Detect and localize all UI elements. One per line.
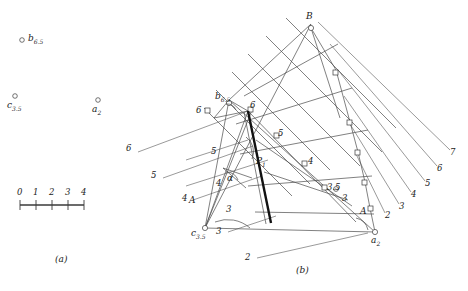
- panel-b-vertex-B: B: [306, 12, 313, 21]
- annotation-P1: P1: [256, 157, 266, 168]
- right-ray-label-6: 6: [437, 164, 442, 173]
- right-ray-label-3: 3: [399, 202, 404, 211]
- left-ray-label-2: 2: [245, 253, 250, 262]
- node-label-3-left: 3: [226, 205, 231, 214]
- scale-tick-2: 2: [49, 188, 54, 197]
- right-ray-label-7: 7: [450, 148, 455, 157]
- left-ray-label-6: 6: [126, 144, 131, 153]
- annotation-alpha: α: [227, 174, 233, 183]
- left-ray-label-4: 4: [182, 194, 187, 203]
- scale-tick-0: 0: [17, 188, 22, 197]
- panel-b-caption: (b): [296, 266, 309, 275]
- panel-b-vertex-b: b6.5: [215, 92, 230, 103]
- scale-tick-3: 3: [65, 188, 70, 197]
- left-ray-label-5: 5: [151, 171, 156, 180]
- right-ray-label-2: 2: [385, 211, 390, 220]
- node-label-A-left: A: [189, 196, 196, 205]
- node-label-6-right: 6: [250, 101, 255, 110]
- scale-tick-1: 1: [33, 188, 38, 197]
- node-label-3-grid: 3: [342, 194, 347, 203]
- panel-a-label-b: b6.5: [28, 34, 43, 45]
- panel-a-points: [13, 38, 101, 103]
- right-ray-label-5: 5: [425, 179, 430, 188]
- panel-b-vertex-c: c3.5: [191, 229, 206, 240]
- panel-a-label-c: c3.5: [7, 101, 22, 112]
- panel-a-caption: (a): [55, 255, 67, 264]
- scale-tick-4: 4: [81, 188, 86, 197]
- node-label-4-grid: 4: [308, 157, 313, 166]
- node-label-A-right: A: [360, 207, 367, 216]
- right-ray-label-4: 4: [411, 190, 416, 199]
- node-label-3point5: 3.5: [327, 183, 341, 192]
- node-label-4-left: 4: [216, 179, 221, 188]
- nomogram-figure: .ln { stroke:#4a4a4a; stroke-width:0.7; …: [0, 0, 468, 291]
- node-label-5-grid: 5: [278, 129, 283, 138]
- node-label-5-left: 5: [211, 147, 216, 156]
- panel-b-vertex-a: a2: [371, 236, 380, 247]
- figure-geometry: .ln { stroke:#4a4a4a; stroke-width:0.7; …: [0, 0, 468, 291]
- panel-a-label-a: a2: [92, 105, 101, 116]
- node-label-6-left: 6: [196, 106, 201, 115]
- grid-lines-ne: [205, 24, 375, 232]
- panel-a-scale-bar: [20, 200, 84, 210]
- left-ray-label-3: 3: [216, 227, 221, 236]
